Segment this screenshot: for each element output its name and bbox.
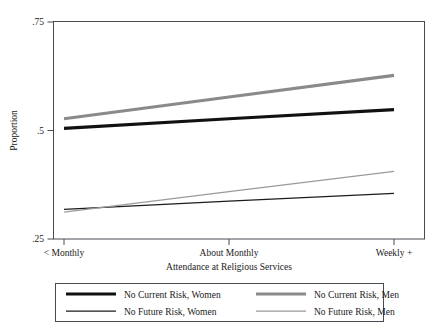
y-axis-title: Proportion [9,110,19,151]
y-tick-label-05: .5 [37,126,44,136]
y-tick-label-025: .25 [32,234,44,244]
legend-label-no-future-risk-women: No Future Risk, Women [124,307,217,317]
x-tick-label-less-monthly: < Monthly [44,248,85,258]
x-axis-title: Attendance at Religious Services [166,262,292,272]
series-line-2 [64,193,394,209]
x-tick-label-weekly-plus: Weekly + [376,248,413,258]
legend-label-no-current-risk-men: No Current Risk, Men [314,290,399,300]
chart-legend: No Current Risk, Women No Current Risk, … [56,284,400,322]
series-line-3 [64,171,394,212]
y-tick-label-075: .75 [32,17,44,27]
legend-label-no-current-risk-women: No Current Risk, Women [124,290,221,300]
x-axis-ticks [64,239,394,245]
y-axis-ticks [48,22,54,239]
x-tick-label-about-monthly: About Monthly [200,248,259,258]
line-chart-canvas: .25 .5 .75 Proportion < Monthly About Mo… [0,0,438,330]
chart-figure: .25 .5 .75 Proportion < Monthly About Mo… [0,0,438,330]
legend-label-no-future-risk-men: No Future Risk, Men [314,307,395,317]
series-group [64,75,394,212]
